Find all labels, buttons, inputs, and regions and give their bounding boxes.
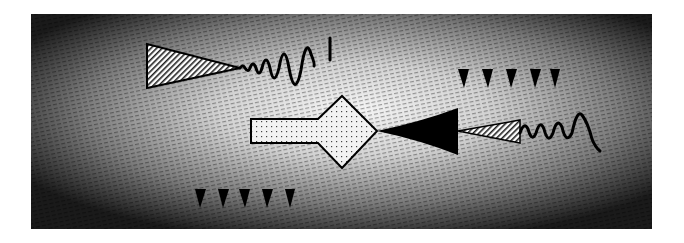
diagram-canvas bbox=[0, 0, 684, 243]
